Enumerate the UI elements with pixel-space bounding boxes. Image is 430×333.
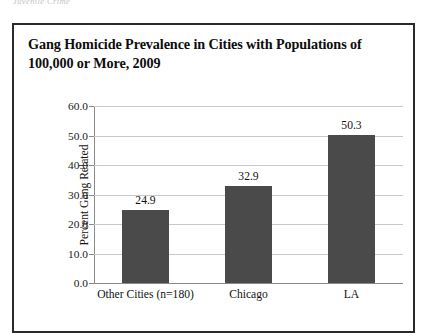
- figure-frame: Gang Homicide Prevalence in Cities with …: [12, 23, 415, 333]
- bar-value-label: 32.9: [214, 170, 284, 183]
- bar-value-label: 50.3: [317, 119, 387, 132]
- gridline: [94, 106, 403, 107]
- y-axis-tick-label: 60.0: [42, 100, 88, 112]
- bar[interactable]: [122, 210, 169, 283]
- y-axis-tick-labels: 0.010.020.030.040.050.060.0: [36, 106, 88, 283]
- y-axis-tick-label: 40.0: [42, 159, 88, 171]
- page-running-header: Juvenile Crime: [13, 0, 70, 6]
- y-axis-tick-label: 50.0: [42, 130, 88, 142]
- y-axis-tick-label: 20.0: [42, 218, 88, 230]
- bar-value-label: 24.9: [111, 194, 181, 207]
- bar[interactable]: [225, 186, 272, 283]
- bar[interactable]: [328, 135, 375, 283]
- y-axis-tick-label: 30.0: [42, 189, 88, 201]
- bar-chart: Percent Gang Related 0.010.020.030.040.0…: [14, 25, 413, 311]
- gridline: [94, 283, 403, 284]
- x-axis-category-label: LA: [277, 288, 427, 301]
- y-axis-tick-label: 10.0: [42, 248, 88, 260]
